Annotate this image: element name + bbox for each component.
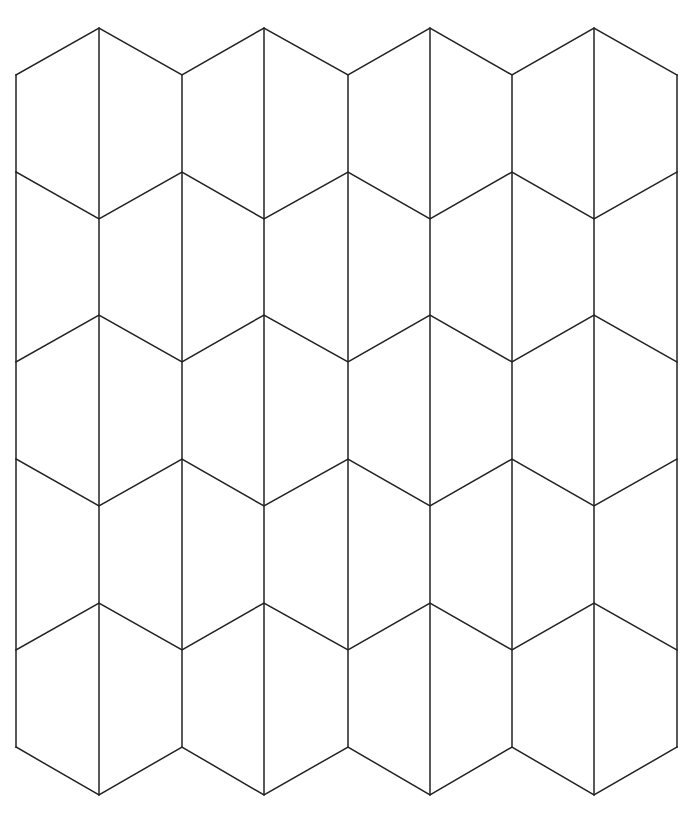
zigzag-line <box>16 315 677 362</box>
tiling-diagram <box>0 0 696 816</box>
zigzag-line <box>16 459 677 506</box>
vertical-lines <box>16 28 677 795</box>
zigzag-line <box>16 603 677 650</box>
zigzag-line <box>16 747 677 795</box>
zigzag-line <box>16 28 677 75</box>
zigzag-lines <box>16 28 677 795</box>
zigzag-line <box>16 172 677 219</box>
